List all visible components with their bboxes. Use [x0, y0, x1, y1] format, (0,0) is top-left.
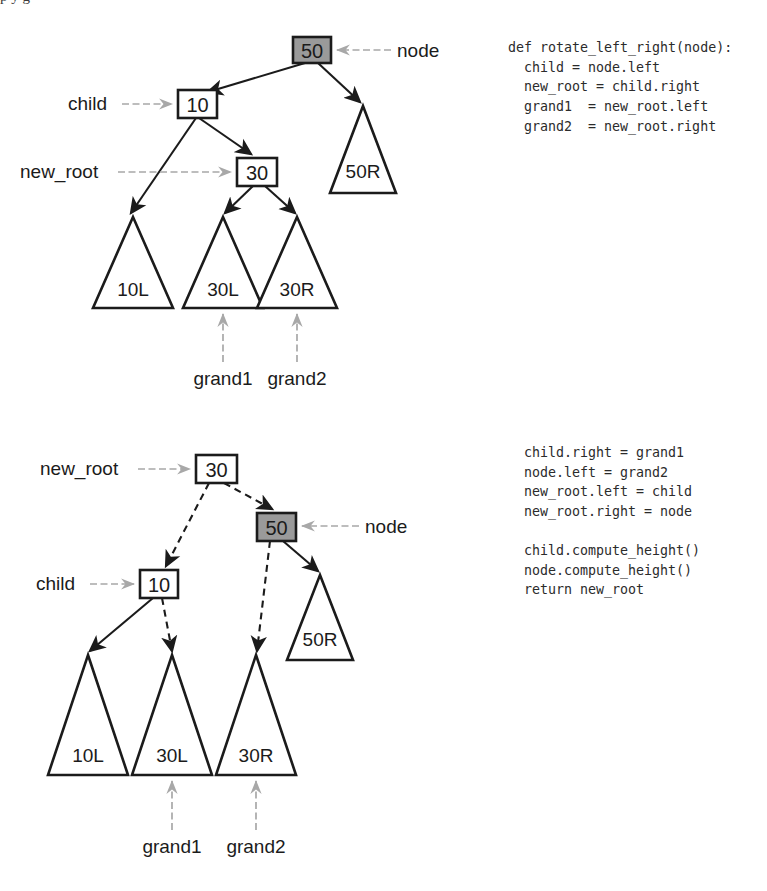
pointer-label: new_root — [40, 458, 119, 480]
pointer-label: child — [68, 93, 107, 114]
node-label: 30 — [246, 162, 268, 184]
pointer-node-bottom: node — [302, 516, 407, 537]
node-10: 10 — [178, 90, 217, 118]
node-label: 10 — [186, 94, 208, 116]
edge-group-after — [90, 483, 318, 651]
pointer-label: grand1 — [193, 368, 252, 389]
subtree-30L-after: 30L — [132, 655, 212, 775]
node-label: 50 — [265, 517, 287, 539]
diagram-after-rotation: 50R 10L 30L 30R 30 50 10 new_root — [36, 455, 407, 857]
subtree-label: 30L — [156, 745, 188, 766]
pointer-label: child — [36, 573, 75, 594]
subtree-50R-after: 50R — [287, 575, 353, 660]
edge-30-to-10-dashed — [166, 483, 209, 566]
pointer-child-bottom: child — [36, 573, 134, 594]
edge-50-to-30R-dashed — [257, 541, 270, 651]
edge-50-to-50R — [318, 63, 360, 102]
pointer-node-top: node — [337, 40, 439, 61]
node-50-highlighted: 50 — [293, 37, 331, 63]
subtree-label: 10L — [72, 745, 104, 766]
edge-group-before — [131, 63, 360, 213]
subtree-10L-after: 10L — [48, 655, 128, 775]
subtree-10L: 10L — [93, 217, 173, 308]
node-10-after: 10 — [140, 570, 178, 598]
pointer-new-root-top: new_root — [20, 161, 231, 183]
code-block-rotate-part1: def rotate_left_right(node): child = nod… — [508, 38, 732, 136]
subtree-label: 50R — [303, 629, 338, 650]
subtree-label: 10L — [117, 279, 149, 300]
edge-10-to-30L-dashed — [162, 598, 172, 651]
subtree-label: 30R — [239, 745, 274, 766]
edge-30-to-30L — [225, 186, 253, 213]
pointer-label: node — [365, 516, 407, 537]
edge-30-to-50-dashed — [224, 483, 272, 509]
node-30-after: 30 — [196, 455, 237, 483]
node-label: 10 — [148, 574, 170, 596]
pointer-grand1-top: grand1 — [193, 314, 252, 389]
pointer-child-top: child — [68, 93, 172, 114]
code-block-rotate-part2: child.right = grand1 node.left = grand2 … — [508, 443, 700, 600]
pointer-label: node — [397, 40, 439, 61]
edge-50-to-50R — [283, 541, 318, 571]
subtree-30L: 30L — [183, 217, 263, 308]
pointer-grand2-bottom: grand2 — [226, 781, 285, 857]
edge-10-to-30 — [199, 118, 251, 154]
subtree-30R-after: 30R — [216, 655, 296, 775]
subtree-30R: 30R — [257, 217, 337, 308]
pointer-label: grand1 — [142, 836, 201, 857]
node-label: 50 — [301, 40, 323, 62]
pointer-new-root-bottom: new_root — [40, 458, 190, 480]
pointer-label: grand2 — [226, 836, 285, 857]
node-50-after-highlighted: 50 — [257, 513, 296, 541]
pointer-label: new_root — [20, 161, 99, 183]
edge-30-to-30R — [265, 186, 295, 213]
pointer-grand1-bottom: grand1 — [142, 781, 201, 857]
subtree-label: 30R — [280, 279, 315, 300]
subtree-label: 50R — [346, 161, 381, 182]
edge-10-to-10L — [90, 598, 153, 651]
pointer-label: grand2 — [267, 368, 326, 389]
subtree-label: 30L — [207, 279, 239, 300]
node-label: 30 — [205, 459, 227, 481]
edge-50-to-10 — [208, 63, 305, 92]
node-30: 30 — [237, 158, 277, 186]
edge-10-to-10L — [131, 118, 196, 213]
pointer-grand2-top: grand2 — [267, 314, 326, 389]
subtree-50R: 50R — [330, 106, 396, 193]
diagram-before-rotation: 50R 10L 30L 30R 50 10 30 no — [20, 37, 439, 389]
